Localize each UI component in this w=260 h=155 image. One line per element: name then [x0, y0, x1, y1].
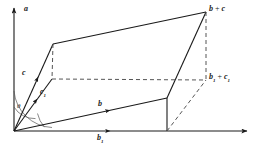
vector-b-line	[14, 98, 167, 131]
label-plus-operator: +	[213, 4, 222, 13]
label-vector-c1: c1	[40, 88, 46, 99]
dash-b1-to-b1c1	[167, 80, 206, 131]
edge-b-to-bc	[167, 12, 206, 98]
label-axis-a: a	[24, 5, 28, 13]
label-vector-c1-sub: 1	[44, 93, 46, 98]
vector-c-line	[14, 44, 53, 131]
label-sum-c: c	[222, 4, 226, 13]
label-sum-c1-sub: 1	[228, 78, 230, 83]
label-vector-b1-sub: 1	[101, 139, 103, 144]
label-vector-b: b	[98, 100, 102, 108]
label-sum-b-plus-c: b + c	[209, 5, 225, 13]
edge-c-to-bc	[53, 12, 206, 44]
label-sum-b1-plus-c1: b1 + c1	[209, 73, 230, 84]
dash-c-to-c1	[52, 44, 53, 79]
label-vector-b1: b1	[97, 134, 103, 145]
label-proj-plus-operator: +	[215, 72, 224, 81]
label-angle-theta: θ	[17, 103, 20, 110]
dash-c1-to-b1c1	[52, 79, 206, 80]
label-vector-c: c	[22, 69, 26, 77]
